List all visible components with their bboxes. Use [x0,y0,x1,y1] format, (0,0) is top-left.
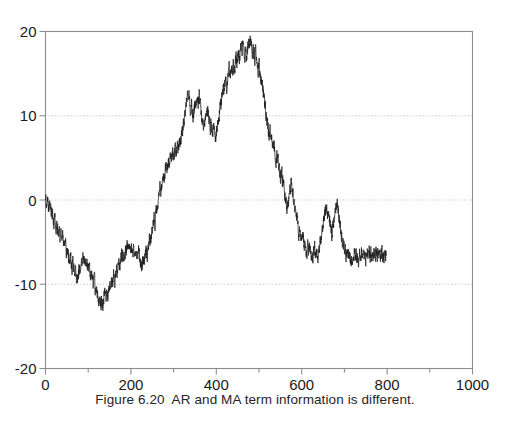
figure-caption: Figure 6.20 AR and MA term information i… [0,392,510,407]
x-tick-label: 0 [41,376,49,393]
y-tick-label: -10 [15,276,37,293]
x-tick-label: 800 [375,376,400,393]
x-tick-label: 600 [289,376,314,393]
x-tick-label: 400 [204,376,229,393]
y-tick-label: 20 [20,23,37,40]
figure-container: 02004006008001000 20100-10-20 Figure 6.2… [0,0,510,428]
y-tick-label: 10 [20,107,37,124]
y-tick-label: 0 [28,192,36,209]
y-tick-label: -20 [15,360,37,377]
x-tick-label: 1000 [456,376,489,393]
x-tick-label: 200 [118,376,143,393]
line-chart: 02004006008001000 20100-10-20 [0,0,510,400]
